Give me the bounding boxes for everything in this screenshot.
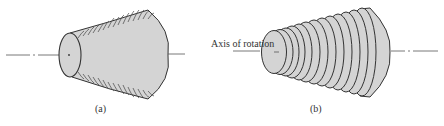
diagram-canvas	[0, 0, 444, 126]
panel-b-disks	[233, 8, 438, 97]
caption-b: (b)	[310, 103, 322, 114]
panel-a-solid	[6, 10, 185, 99]
axis-of-rotation-label: Axis of rotation	[211, 38, 274, 49]
caption-a: (a)	[95, 103, 106, 114]
